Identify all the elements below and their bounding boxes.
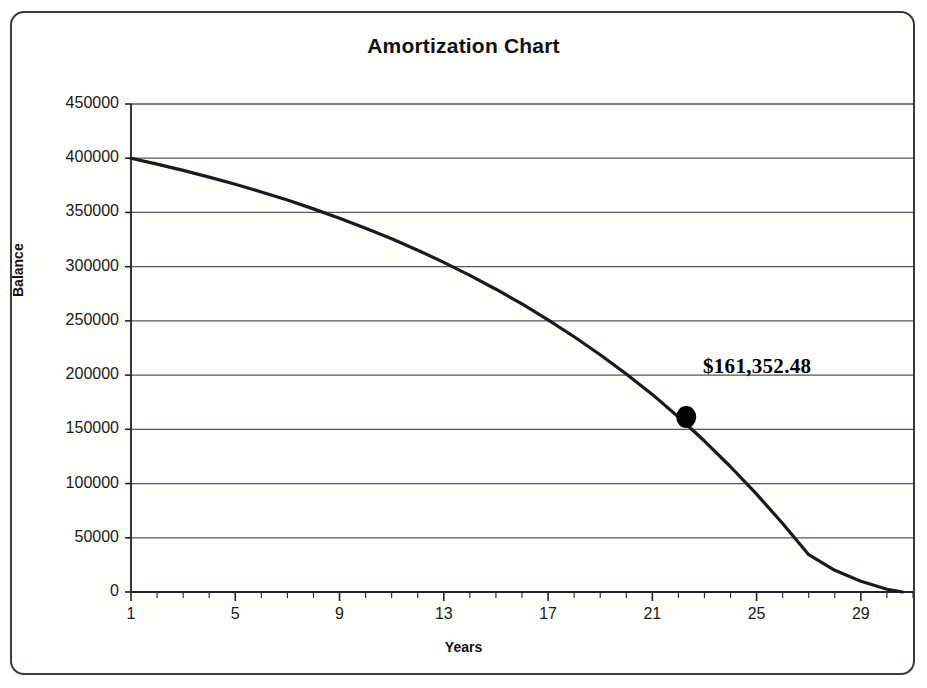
y-tick-label: 50000: [9, 528, 119, 546]
balance-data-point-marker[interactable]: [676, 406, 696, 428]
y-tick-label: 100000: [9, 474, 119, 492]
x-tick-label: 1: [101, 605, 161, 623]
x-tick-label: 5: [205, 605, 265, 623]
y-tick-label: 250000: [9, 311, 119, 329]
y-tick-label: 400000: [9, 148, 119, 166]
x-tick-label: 17: [518, 605, 578, 623]
y-tick-label: 350000: [9, 202, 119, 220]
y-tick-label: 200000: [9, 365, 119, 383]
x-tick-label: 21: [622, 605, 682, 623]
x-tick-label: 13: [414, 605, 474, 623]
x-tick-label: 29: [831, 605, 891, 623]
balance-annotation-label: $161,352.48: [703, 354, 811, 379]
plot-area: [0, 0, 927, 688]
y-tick-label: 150000: [9, 419, 119, 437]
x-tick-label: 25: [727, 605, 787, 623]
y-tick-label: 450000: [9, 94, 119, 112]
x-tick-label: 9: [310, 605, 370, 623]
y-tick-label: 0: [9, 582, 119, 600]
y-tick-label: 300000: [9, 257, 119, 275]
